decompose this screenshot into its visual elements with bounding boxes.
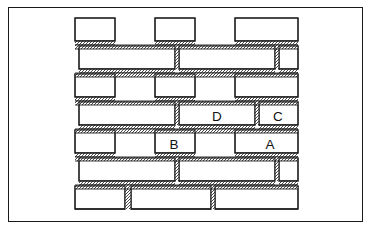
brick-label-b: B — [169, 138, 178, 152]
brick-courses — [75, 18, 298, 209]
brick-wall-drawing — [0, 0, 372, 232]
brick-bond-diagram: D C B A — [0, 0, 372, 232]
brick-label-a: A — [265, 138, 274, 152]
brick-label-d: D — [212, 110, 222, 124]
brick-label-c: C — [273, 110, 283, 124]
